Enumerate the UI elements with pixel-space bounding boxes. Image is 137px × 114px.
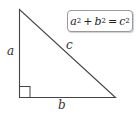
label-side-b: b xyxy=(58,98,66,112)
formula-exp-b: 2 xyxy=(101,17,105,25)
label-hypotenuse-c: c xyxy=(66,38,73,52)
formula-exp-c: 2 xyxy=(125,17,129,25)
formula-equals: = xyxy=(108,15,117,28)
formula-b: b xyxy=(94,15,101,28)
label-side-a: a xyxy=(7,44,14,58)
right-angle-marker xyxy=(20,87,31,98)
pythagorean-formula: a2 + b2 = c2 xyxy=(67,10,133,32)
formula-exp-a: 2 xyxy=(77,17,81,25)
formula-plus: + xyxy=(83,15,92,28)
